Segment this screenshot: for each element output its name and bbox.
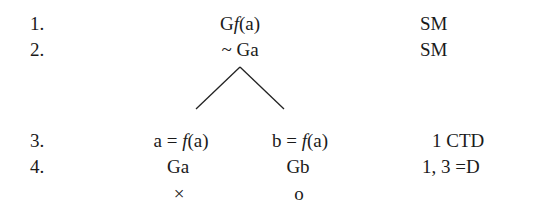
right-branch-line (240, 67, 284, 109)
formula-line-3-left: a = f(a) (153, 131, 208, 150)
left-branch-line (196, 67, 240, 109)
justification-line-2: SM (420, 40, 447, 59)
formula-line-3-right: b = f(a) (272, 131, 328, 150)
line-number-1: 1. (30, 14, 44, 33)
line-number-4: 4. (30, 157, 44, 176)
closed-branch-marker: × (174, 184, 185, 203)
line-number-2: 2. (30, 40, 44, 59)
justification-line-4: 1, 3 =D (422, 157, 480, 176)
formula-line-1: Gf(a) (220, 14, 260, 33)
tree-branch-lines (0, 0, 560, 215)
line-number-3: 3. (30, 131, 44, 150)
formula-line-4-right: Gb (286, 157, 309, 176)
open-branch-marker: o (294, 184, 304, 203)
formula-line-2: ~ Ga (221, 40, 258, 59)
justification-line-3: 1 CTD (432, 131, 484, 150)
justification-line-1: SM (420, 14, 447, 33)
formula-line-4-left: Ga (167, 157, 189, 176)
